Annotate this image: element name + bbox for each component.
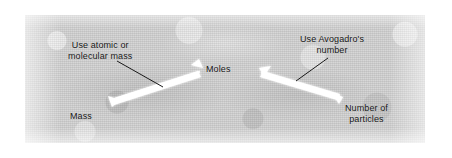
moles-to-particles-arrow [259, 66, 343, 104]
left-leader-line [117, 61, 163, 87]
left-annotation-line2: molecular mass [68, 51, 132, 62]
mole-conversion-figure: Use atomic or molecular mass Moles Use A… [0, 0, 452, 158]
right-node-line2: particles [345, 114, 388, 125]
right-annotation-label: Use Avogadro's number [300, 34, 364, 56]
center-node-label: Moles [206, 64, 231, 75]
left-annotation-line1: Use atomic or [68, 40, 132, 51]
left-annotation-label: Use atomic or molecular mass [68, 40, 132, 62]
left-node-label: Mass [70, 111, 92, 122]
diagram-vector-layer [0, 0, 452, 158]
right-node-line1: Number of [345, 103, 388, 114]
right-node-label: Number of particles [345, 103, 388, 125]
right-leader-line [296, 58, 328, 81]
right-annotation-line2: number [300, 45, 364, 56]
right-annotation-line1: Use Avogadro's [300, 34, 364, 45]
